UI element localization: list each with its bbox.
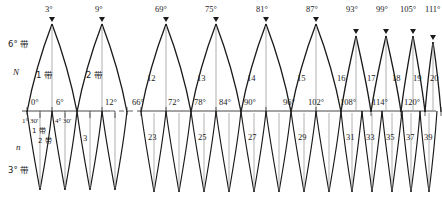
right-axis-ticks — [141, 107, 441, 116]
zone-label-lower-right-8: 39 — [424, 133, 433, 142]
zone-label-upper-right-2: 14 — [247, 74, 256, 83]
sub-axis-label-left-0: 1° 30' — [22, 118, 38, 125]
zone-label-lower-right-7: 37 — [406, 133, 415, 142]
apex-label-right-7: 111° — [425, 5, 441, 14]
left-apex-arrows — [49, 17, 105, 22]
axis-label-right-6: 102° — [308, 98, 324, 107]
axis-label-right-0: 66° — [132, 98, 144, 107]
zone-diagram: 6° 带 N n 3° 带 3° 9° 1 带 2 带 0° 6° 12° 1°… — [0, 0, 442, 208]
axis-label-right-5: 96° — [283, 98, 295, 107]
apex-label-left-0: 3° — [45, 5, 53, 14]
sub-axis-label-left-1: 4° 30' — [55, 118, 71, 125]
apex-label-right-1: 75° — [205, 5, 217, 14]
axis-label-right-9: 120° — [404, 98, 420, 107]
zone-label-upper-right-7: 19 — [413, 74, 422, 83]
zone-label-lower-right-3: 29 — [298, 133, 307, 142]
zone-label-upper-right-6: 18 — [392, 74, 401, 83]
axis-label-right-3: 84° — [219, 98, 231, 107]
zone-label-lower-left-1: 2 带 — [38, 138, 52, 145]
axis-label-right-4: 90° — [244, 98, 256, 107]
apex-label-right-2: 81° — [256, 5, 268, 14]
right-3deg-zones — [141, 111, 437, 192]
zone-label-lower-right-4: 31 — [346, 133, 355, 142]
apex-label-right-3: 87° — [306, 5, 318, 14]
axis-label-right-8: 114° — [372, 98, 388, 107]
label-n: n — [16, 143, 21, 152]
zone-label-upper-right-0: 12 — [147, 74, 156, 83]
zone-label-upper-right-8: 20 — [430, 74, 439, 83]
apex-label-left-1: 9° — [95, 5, 103, 14]
label-3deg-band: 3° 带 — [8, 166, 29, 175]
axis-label-right-1: 72° — [168, 98, 180, 107]
zone-label-upper-right-5: 17 — [367, 74, 376, 83]
apex-label-right-6: 105° — [400, 5, 416, 14]
zone-label-upper-right-3: 15 — [297, 74, 306, 83]
zone-label-lower-right-5: 33 — [366, 133, 375, 142]
zone-label-lower-right-1: 25 — [198, 133, 207, 142]
apex-label-right-5: 99° — [376, 5, 388, 14]
axis-label-right-2: 78° — [194, 98, 206, 107]
zone-label-lower-left-2: 3 — [83, 134, 87, 143]
axis-label-right-7: 108° — [340, 98, 356, 107]
zone-label-upper-left-1: 2 带 — [86, 71, 103, 80]
apex-label-right-4: 93° — [346, 5, 358, 14]
axis-label-left-0: 0° — [31, 98, 39, 107]
apex-label-right-0: 69° — [155, 5, 167, 14]
axis-label-left-2: 12° — [105, 98, 117, 107]
zone-label-upper-right-4: 16 — [337, 74, 346, 83]
label-6deg-band: 6° 带 — [8, 40, 29, 49]
right-3deg-center-meridians — [154, 113, 429, 190]
zone-label-upper-left-0: 1 带 — [36, 71, 53, 80]
left-3deg-zones — [27, 111, 127, 190]
zone-label-upper-right-1: 13 — [197, 74, 206, 83]
axis-label-left-1: 6° — [56, 98, 64, 107]
right-apex-arrows — [163, 17, 436, 40]
zone-label-lower-right-2: 27 — [248, 133, 257, 142]
zone-label-lower-right-6: 35 — [386, 133, 395, 142]
zone-label-lower-left-0: 1 带 — [32, 128, 46, 135]
zone-label-lower-right-0: 23 — [148, 133, 157, 142]
label-N: N — [13, 68, 19, 77]
